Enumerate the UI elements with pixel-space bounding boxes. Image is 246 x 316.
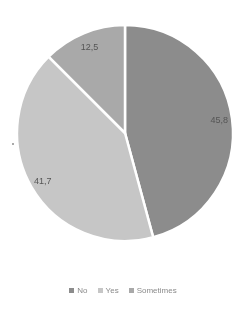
legend-swatch-yes [98, 288, 103, 293]
legend-item-no: No [69, 286, 87, 295]
data-label-no: 45,8 [210, 115, 228, 125]
legend: No Yes Sometimes [0, 286, 246, 295]
pie-chart: 45,841,712,5 [0, 0, 246, 316]
stray-mark [12, 143, 14, 145]
pie-slices [17, 25, 233, 241]
legend-label-no: No [77, 286, 87, 295]
legend-item-sometimes: Sometimes [129, 286, 177, 295]
legend-swatch-no [69, 288, 74, 293]
legend-item-yes: Yes [98, 286, 119, 295]
data-label-sometimes: 12,5 [81, 42, 99, 52]
legend-label-sometimes: Sometimes [137, 286, 177, 295]
legend-swatch-sometimes [129, 288, 134, 293]
data-label-yes: 41,7 [34, 176, 52, 186]
legend-label-yes: Yes [106, 286, 119, 295]
